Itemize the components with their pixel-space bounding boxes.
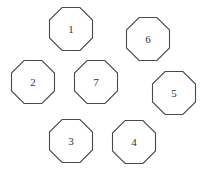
node-label: 5 (171, 87, 177, 99)
node-label: 1 (68, 23, 74, 35)
node-label: 3 (68, 135, 74, 147)
octagon-node-1: 1 (50, 8, 93, 51)
octagon-node-6: 6 (127, 18, 170, 61)
node-label: 6 (145, 33, 151, 45)
octagon-node-2: 2 (12, 61, 55, 104)
octagon-node-3: 3 (50, 120, 93, 163)
node-label: 7 (93, 76, 99, 88)
octagon-node-7: 7 (75, 61, 118, 104)
octagon-node-4: 4 (113, 121, 156, 164)
node-label: 4 (131, 136, 137, 148)
octagon-node-5: 5 (153, 72, 196, 115)
node-label: 2 (30, 76, 36, 88)
diagram-canvas: 1 6 2 7 5 3 4 (0, 0, 207, 171)
